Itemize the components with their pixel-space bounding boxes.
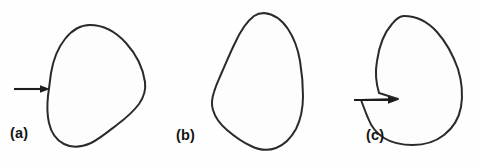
panel-c: (c) <box>318 0 478 165</box>
panel-b: (b) <box>160 0 318 165</box>
shape-outline-c <box>361 16 462 145</box>
panel-c-drawing <box>318 0 478 165</box>
panel-label-b: (b) <box>176 128 195 143</box>
shape-outline-b <box>212 13 303 150</box>
pointer-arrow-a <box>14 85 50 93</box>
panel-label-a: (a) <box>10 126 28 141</box>
shape-outline-a <box>47 25 145 147</box>
figure-root: (a) (b) (c) <box>0 0 478 165</box>
panel-a: (a) <box>0 0 160 165</box>
panel-label-c: (c) <box>366 128 384 143</box>
